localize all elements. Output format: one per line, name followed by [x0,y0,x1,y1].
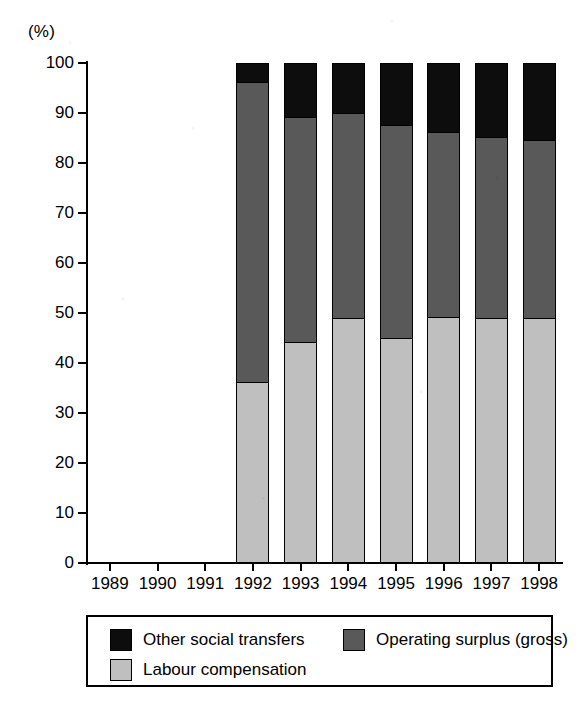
segment-divider [285,117,316,118]
bar-segment [333,318,364,564]
segment-divider [524,318,555,319]
segment-divider [476,137,507,138]
segment-divider [237,82,268,83]
bar-segment [381,338,412,563]
y-axis-tick-label: 80 [4,154,74,171]
y-axis-tick-label: 30 [4,404,74,421]
y-axis-tick [78,562,87,564]
x-axis-tick [252,563,254,571]
x-axis-tick [538,563,540,571]
bar-segment [428,317,459,564]
bar-segment [285,342,316,564]
y-axis-tick-label: 10 [4,504,74,521]
bar-segment [476,64,507,137]
legend-label: Operating surplus (gross) [376,630,568,650]
bar-segment [428,64,459,132]
bar-segment [381,125,412,339]
bar-segment [237,64,268,82]
chart-legend: Other social transfersOperating surplus … [86,615,553,687]
y-axis-tick-label: 60 [4,254,74,271]
y-axis-tick [78,62,87,64]
y-axis-tick-label: 0 [4,554,74,571]
segment-divider [476,318,507,319]
y-axis-tick [78,412,87,414]
y-axis-unit-label: (%) [28,22,55,42]
bar-segment [524,140,555,318]
y-axis-tick [78,212,87,214]
bar-1993[interactable] [284,63,317,563]
segment-divider [524,140,555,141]
y-axis-tick [78,112,87,114]
stacked-bar-chart-figure: (%) 0102030405060708090100 1989199019911… [0,0,585,712]
bar-1996[interactable] [427,63,460,563]
y-axis-tick [78,462,87,464]
x-axis-tick [204,563,206,571]
y-axis-tick [78,362,87,364]
legend-label: Labour compensation [143,660,307,680]
x-axis-tick [157,563,159,571]
y-axis-tick-label: 40 [4,354,74,371]
x-axis-tick [300,563,302,571]
segment-divider [428,317,459,318]
segment-divider [428,132,459,133]
y-axis-tick [78,312,87,314]
x-axis-tick [347,563,349,571]
bar-segment [524,318,555,564]
bar-1998[interactable] [523,63,556,563]
bar-1994[interactable] [332,63,365,563]
x-axis-tick [490,563,492,571]
legend-swatch-icon [343,629,365,651]
bar-1997[interactable] [475,63,508,563]
bar-1995[interactable] [380,63,413,563]
legend-item[interactable]: Labour compensation [110,655,307,685]
y-axis-tick [78,512,87,514]
bar-segment [285,117,316,342]
x-axis-tick [109,563,111,571]
y-axis-tick [78,262,87,264]
legend-swatch-icon [110,629,132,651]
bar-segment [333,64,364,113]
segment-divider [333,113,364,114]
bar-segment [428,132,459,317]
bar-segment [237,382,268,564]
segment-divider [381,338,412,339]
legend-item[interactable]: Operating surplus (gross) [343,625,568,655]
y-axis-tick-label: 90 [4,104,74,121]
segment-divider [237,382,268,383]
y-axis-tick-label: 70 [4,204,74,221]
bar-segment [237,82,268,382]
y-axis-tick-label: 20 [4,454,74,471]
y-axis-tick-label: 50 [4,304,74,321]
bar-segment [285,64,316,117]
segment-divider [381,125,412,126]
y-axis-tick [78,162,87,164]
x-axis-tick [395,563,397,571]
legend-label: Other social transfers [143,630,305,650]
legend-item[interactable]: Other social transfers [110,625,305,655]
legend-swatch-icon [110,659,132,681]
bar-segment [476,137,507,318]
segment-divider [333,318,364,319]
bar-segment [333,113,364,318]
x-axis-tick-label: 1998 [509,574,569,594]
bar-segment [524,64,555,140]
bar-segment [381,64,412,125]
segment-divider [285,342,316,343]
y-axis-tick-label: 100 [4,54,74,71]
x-axis-tick [443,563,445,571]
bar-1992[interactable] [236,63,269,563]
bar-segment [476,318,507,564]
